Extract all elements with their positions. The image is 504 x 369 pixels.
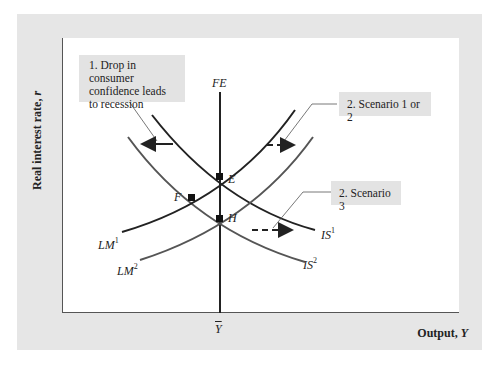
is1-label: IS1 xyxy=(321,226,335,243)
is2-label: IS2 xyxy=(303,256,317,273)
is2-curve xyxy=(128,137,305,262)
point-h-label: H xyxy=(228,211,237,226)
lm1-label: LM1 xyxy=(98,236,119,253)
callout-scenario3: 2. Scenario 3 xyxy=(331,181,401,205)
point-f xyxy=(188,194,195,201)
lm2-label: LM2 xyxy=(117,262,138,279)
point-e xyxy=(216,173,223,180)
lm2-curve xyxy=(140,137,313,260)
fe-label: FE xyxy=(212,76,227,91)
x-tick-ybar: Y xyxy=(215,322,222,337)
leader-line-scenario12 xyxy=(281,104,337,145)
callout-step1: 1. Drop in consumer confidence leads to … xyxy=(79,55,185,102)
leader-line-scenario3 xyxy=(273,192,331,228)
point-e-label: E xyxy=(228,172,235,187)
is-lm-diagram xyxy=(0,0,504,369)
callout-scenario12: 2. Scenario 1 or 2 xyxy=(339,92,431,116)
point-h xyxy=(216,215,223,222)
point-f-label: F xyxy=(174,190,181,205)
